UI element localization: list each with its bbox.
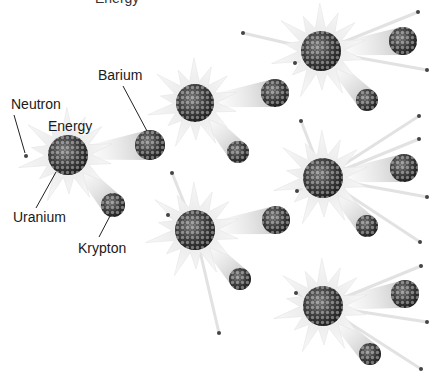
krypton-nucleus-texture bbox=[227, 141, 249, 163]
krypton-nucleus-texture bbox=[356, 89, 378, 111]
neutron-dot bbox=[419, 367, 423, 371]
krypton-nucleus-texture bbox=[101, 193, 125, 217]
neutron-dot bbox=[241, 31, 245, 35]
fission-chain-graphic bbox=[0, 0, 439, 373]
barium-nucleus-texture bbox=[261, 79, 289, 107]
barium-nucleus-texture bbox=[391, 280, 419, 308]
neutron-label: Neutron bbox=[11, 97, 61, 111]
neutron-dot bbox=[425, 68, 429, 72]
uranium-nucleus-texture bbox=[176, 84, 214, 122]
krypton-nucleus-texture bbox=[229, 268, 251, 290]
energy-label: Energy bbox=[48, 119, 92, 133]
neutron-dot bbox=[166, 213, 170, 217]
neutron-dot bbox=[417, 137, 421, 141]
neutron-dot bbox=[419, 264, 423, 268]
barium-nucleus-texture bbox=[135, 130, 165, 160]
neutron-dot bbox=[217, 331, 221, 335]
clipped-top-text: Energy bbox=[95, 0, 139, 6]
uranium-nucleus-texture bbox=[175, 210, 215, 250]
barium-nucleus-texture bbox=[389, 27, 417, 55]
neutron-dot bbox=[418, 240, 422, 244]
neutron-dot bbox=[170, 171, 174, 175]
barium-nucleus-texture bbox=[390, 154, 418, 182]
krypton-nucleus-texture bbox=[359, 343, 381, 365]
barium-nucleus-texture bbox=[262, 206, 290, 234]
uranium-label: Uranium bbox=[13, 210, 66, 224]
neutron-dot bbox=[24, 154, 28, 158]
neutron-dot bbox=[294, 291, 298, 295]
neutron-dot bbox=[416, 10, 420, 14]
neutron-dot bbox=[425, 320, 429, 324]
neutron-dot bbox=[293, 61, 297, 65]
neutron-dot bbox=[299, 119, 303, 123]
uranium-nucleus-texture bbox=[303, 158, 343, 198]
uranium-nucleus-texture bbox=[48, 135, 88, 175]
uranium-nucleus-texture bbox=[303, 286, 343, 326]
neutron-dot bbox=[417, 114, 421, 118]
krypton-nucleus-texture bbox=[356, 215, 378, 237]
krypton-label: Krypton bbox=[78, 241, 126, 255]
barium-label: Barium bbox=[98, 68, 142, 82]
neutron-dot bbox=[425, 195, 429, 199]
uranium-nucleus-texture bbox=[301, 31, 341, 71]
fission-diagram: Energy bbox=[0, 0, 439, 373]
neutron-dot bbox=[295, 189, 299, 193]
